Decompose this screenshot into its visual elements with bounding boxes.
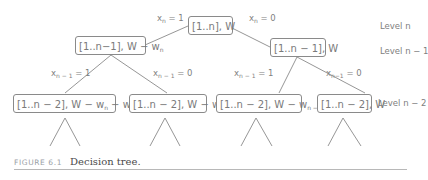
node-root: [1..n], W xyxy=(188,16,233,35)
node-level-n-2-1: [1..n − 2], W − wn − wn − 1 xyxy=(13,94,116,113)
edge-root-right xyxy=(232,28,270,47)
edge-sub: n − 1 xyxy=(239,72,255,79)
node-left-level-n-1: [1..n−1], W − wn xyxy=(75,36,146,55)
edge-val: = 0 xyxy=(175,68,193,78)
figure-title: Decision tree. xyxy=(70,156,141,167)
node-label-mid: − w xyxy=(108,99,131,110)
figure-number: FIGURE 6.1 xyxy=(14,158,62,167)
node-label: [1..n−1], W − w xyxy=(79,41,160,52)
edge-val: = 1 xyxy=(256,68,274,78)
edge-sub: n−1 xyxy=(331,72,344,79)
node-level-n-2-4: [1..n − 2], W xyxy=(317,94,372,113)
edge-label-left1-right: xn − 1 = 0 xyxy=(153,68,192,79)
node-label: [1..n − 2], W − w xyxy=(220,99,307,110)
node-root-label: [1..n], W xyxy=(192,21,235,32)
edge-label-right1-right: xn−1 = 0 xyxy=(326,68,362,79)
edge-val: = 1 xyxy=(73,68,91,78)
node-label: [1..n − 2], W xyxy=(321,99,385,110)
caption-divider xyxy=(14,169,407,170)
edge-val: = 0 xyxy=(258,13,276,23)
node-right-level-n-1: [1..n − 1], W xyxy=(270,38,326,57)
edge-val: = 1 xyxy=(166,13,184,23)
edge-sub: n − 1 xyxy=(56,72,72,79)
edge-sub: n − 1 xyxy=(158,72,174,79)
level-label-n-1: Level n − 1 xyxy=(380,46,428,56)
node-subscript: n xyxy=(160,46,164,53)
edge-label-root-left: xn = 1 xyxy=(157,13,184,24)
edge-label-root-right: xn = 0 xyxy=(249,13,276,24)
level-label-n-2: Level n − 2 xyxy=(378,98,426,108)
edge-val: = 0 xyxy=(344,68,362,78)
figure-caption: FIGURE 6.1Decision tree. xyxy=(14,150,141,169)
node-level-n-2-3: [1..n − 2], W − wn − 1 xyxy=(216,94,302,113)
level-label-n: Level n xyxy=(380,21,411,31)
node-label: [1..n − 2], W − w xyxy=(17,99,104,110)
edge-right1-left xyxy=(279,57,297,93)
edge-label-left1-left: xn − 1 = 1 xyxy=(51,68,90,79)
node-label: [1..n − 1], W xyxy=(274,43,338,54)
node-level-n-2-2: [1..n − 2], W − wn xyxy=(129,94,207,113)
edge-label-right1-left: xn − 1 = 1 xyxy=(234,68,273,79)
node-label: [1..n − 2], W − w xyxy=(133,99,220,110)
